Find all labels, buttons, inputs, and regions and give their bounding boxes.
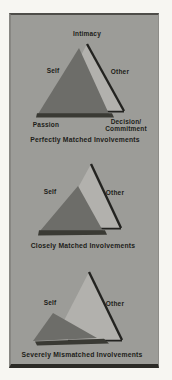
decision-commitment-line1: Decision/ xyxy=(105,118,147,125)
labels-layer: Intimacy Self Other Passion Decision/ Co… xyxy=(0,0,172,380)
self-label-3: Self xyxy=(44,299,57,306)
other-label-1: Other xyxy=(111,68,129,75)
decision-commitment-label: Decision/ Commitment xyxy=(105,118,147,132)
decision-commitment-line2: Commitment xyxy=(105,125,147,132)
other-label-3: Other xyxy=(106,300,124,307)
caption-closely-matched: Closely Matched Involvements xyxy=(31,241,136,248)
figure-page: Intimacy Self Other Passion Decision/ Co… xyxy=(0,0,172,380)
caption-severely-mismatched: Severely Mismatched Involvements xyxy=(22,351,143,358)
other-label-2: Other xyxy=(106,189,124,196)
self-label-2: Self xyxy=(44,188,57,195)
intimacy-label: Intimacy xyxy=(73,30,101,37)
self-label-1: Self xyxy=(47,67,60,74)
passion-label: Passion xyxy=(33,121,59,128)
caption-perfectly-matched: Perfectly Matched Involvements xyxy=(30,136,140,143)
